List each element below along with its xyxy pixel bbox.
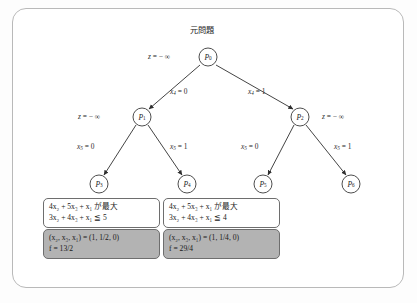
panel-p4-problem: 4x₂ + 5x₃ + x₁ が最大 3x₂ + 4x₃ + x₁ ≦ 4 [163,198,280,228]
node-label-p1: P1 [138,113,145,122]
panel-p3-objective: 4x₂ + 5x₃ + x₁ が最大 [49,202,154,213]
panel-p4-objective-value: f = 29/4 [169,244,274,255]
node-label-p0: P0 [204,53,211,62]
edge-p1-p3 [104,125,136,175]
edge-label-x4-1: x4 = 1 [248,88,265,96]
panel-p3-solution: (x₂, x₃, x₁) = (1, 1/2, 0) [49,233,154,244]
panel-p4-objective: 4x₂ + 5x₃ + x₁ が最大 [169,202,274,213]
bound-label-p1: z = − ∞ [78,113,100,120]
panel-p4: 4x₂ + 5x₃ + x₁ が最大 3x₂ + 4x₃ + x₁ ≦ 4 (x… [163,198,280,259]
node-label-p5: P5 [259,180,266,189]
edge-label-x5-0-right: x5 = 0 [241,143,258,151]
panel-p3-constraint: 3x₂ + 4x₃ + x₁ ≦ 5 [49,213,154,224]
panel-p3: 4x₂ + 5x₃ + x₁ が最大 3x₂ + 4x₃ + x₁ ≦ 5 (x… [43,198,160,259]
edge-p0-p1 [149,65,200,109]
bound-label-root: z = − ∞ [148,53,170,60]
node-label-p4: P4 [183,180,190,189]
edge-label-x5-0-left: x5 = 0 [77,143,94,151]
panel-p4-solution-box: (x₂, x₃, x₁) = (1, 1/4, 0) f = 29/4 [163,229,280,259]
panel-p3-solution-box: (x₂, x₃, x₁) = (1, 1/2, 0) f = 13/2 [43,229,160,259]
edge-label-x4-0: x4 = 0 [170,88,187,96]
edge-p2-p5 [268,125,294,175]
bound-label-p2: z = − ∞ [322,113,344,120]
edge-label-x5-1-left: x5 = 1 [170,143,187,151]
edge-label-x5-1-right: x5 = 1 [334,143,351,151]
panel-p4-solution: (x₂, x₃, x₁) = (1, 1/4, 0) [169,233,274,244]
panel-p4-constraint: 3x₂ + 4x₃ + x₁ ≦ 4 [169,213,274,224]
panel-p3-objective-value: f = 13/2 [49,244,154,255]
root-caption: 元問題 [190,23,214,35]
node-label-p6: P6 [347,180,354,189]
figure-canvas: 元問題 P0 P1 P2 P3 P4 P5 P6 z = − ∞ z = − ∞… [0,0,417,303]
panel-p3-problem: 4x₂ + 5x₃ + x₁ が最大 3x₂ + 4x₃ + x₁ ≦ 5 [43,198,160,228]
node-label-p2: P2 [296,113,303,122]
node-label-p3: P3 [95,180,102,189]
